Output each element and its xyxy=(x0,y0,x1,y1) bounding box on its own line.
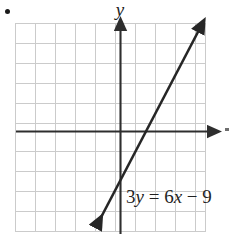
page-edge-artifact xyxy=(225,128,229,131)
equation-lhs-coefficient: 3y = 6x − 9 xyxy=(126,186,212,207)
graph-figure: y xyxy=(0,0,231,239)
equation-annotation: 3y = 6x − 9 xyxy=(126,186,212,208)
